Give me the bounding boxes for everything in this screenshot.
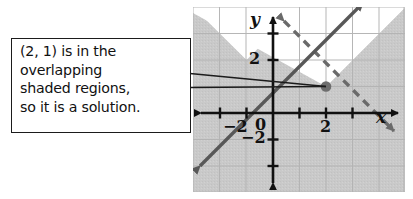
leader-line-bottom — [190, 87, 326, 88]
leader-line-top — [190, 74, 326, 87]
leader-lines — [0, 0, 413, 199]
figure-root: y x 2 −2 −2 2 0 (2, 1) is in the overlap… — [0, 0, 413, 199]
